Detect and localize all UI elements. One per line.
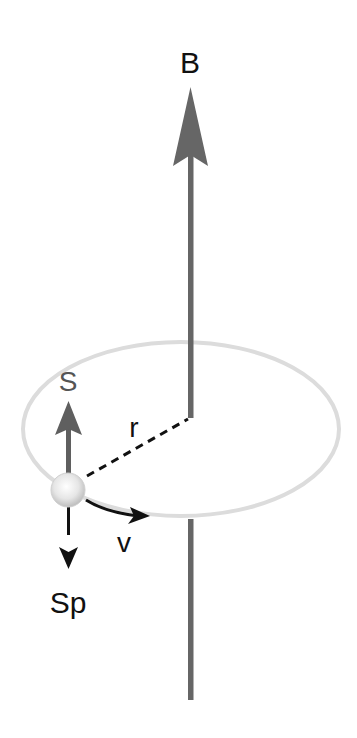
label-B: B	[180, 46, 200, 79]
precession-arrowhead-icon	[59, 547, 78, 569]
spin-arrow-shaft	[66, 425, 71, 475]
particle-sphere	[51, 473, 85, 507]
label-r: r	[129, 412, 138, 443]
precession-arrow-shaft	[67, 505, 70, 535]
field-arrowhead-icon	[173, 87, 208, 166]
label-Sp: Sp	[50, 586, 87, 619]
label-v: v	[117, 527, 131, 558]
label-S: S	[59, 366, 78, 397]
field-line-lower	[188, 519, 194, 700]
magnetic-moment-diagram: B S r v Sp	[0, 0, 357, 738]
field-line-upper	[188, 150, 194, 418]
